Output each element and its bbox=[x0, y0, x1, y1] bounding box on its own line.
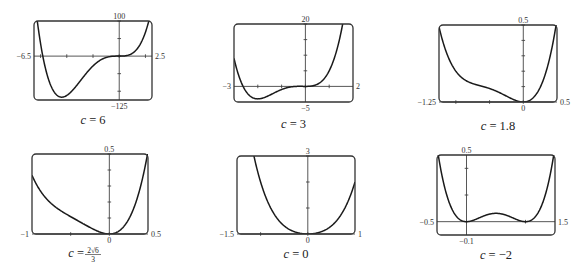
xmax-label: 2 bbox=[356, 82, 360, 91]
plot-panel-6: −0.51.50.5−0.1c = −2 bbox=[419, 146, 568, 263]
xmax-label: 0.5 bbox=[151, 230, 161, 239]
xmin-label: −3 bbox=[222, 82, 231, 91]
function-curve bbox=[234, 0, 353, 99]
ymin-label: −5 bbox=[301, 104, 310, 113]
plot-panel-1: −6.52.5100−125c = 6 bbox=[16, 0, 165, 127]
ymax-label: 100 bbox=[113, 12, 125, 21]
ymax-label: 0.5 bbox=[104, 145, 114, 154]
xmin-label: −6.5 bbox=[16, 52, 31, 61]
xmin-label: −1.25 bbox=[417, 98, 436, 107]
ymin-label: 0 bbox=[107, 236, 111, 245]
caption-denominator: 3 bbox=[91, 255, 95, 264]
caption-value: = 3 bbox=[287, 117, 307, 131]
chart-grid: −6.52.5100−125c = 6−3220−5c = 3−1.250.50… bbox=[0, 0, 581, 271]
ymax-label: 0.5 bbox=[462, 146, 472, 155]
caption: c = 6 bbox=[80, 113, 105, 127]
function-curve bbox=[34, 0, 152, 97]
caption-value: = 6 bbox=[86, 113, 106, 127]
xmin-label: −0.5 bbox=[419, 218, 434, 227]
function-curve bbox=[237, 44, 355, 234]
ymin-label: 0 bbox=[521, 104, 525, 113]
caption: c = 1.8 bbox=[481, 119, 516, 133]
ymax-label: 0.5 bbox=[518, 16, 528, 25]
plot-frame bbox=[32, 154, 148, 234]
xmin-label: −1 bbox=[20, 230, 29, 239]
function-curve bbox=[439, 19, 557, 102]
caption: c = 0 bbox=[283, 247, 308, 261]
xmax-label: 0.5 bbox=[560, 98, 570, 107]
plot-panel-5: −1.5130c = 0 bbox=[219, 44, 362, 261]
function-curve bbox=[437, 147, 555, 222]
xmax-label: 2.5 bbox=[155, 52, 165, 61]
ymin-label: −0.1 bbox=[459, 237, 474, 246]
plot-frame bbox=[234, 24, 353, 102]
plot-frame bbox=[437, 155, 555, 235]
ymax-label: 20 bbox=[301, 15, 309, 24]
ymin-label: −125 bbox=[111, 102, 128, 111]
plot-frame bbox=[237, 156, 355, 234]
caption: c = −2 bbox=[480, 248, 512, 262]
function-curve bbox=[32, 151, 148, 234]
caption-value: = 0 bbox=[289, 247, 309, 261]
xmin-label: −1.5 bbox=[219, 230, 234, 239]
caption-equals: = bbox=[74, 246, 84, 260]
ymin-label: 0 bbox=[306, 236, 310, 245]
caption-value: = −2 bbox=[485, 248, 512, 262]
caption-prefix: c = bbox=[68, 246, 84, 260]
plot-panel-4: −10.50.50c = 2√63 bbox=[20, 145, 161, 264]
xmax-label: 1.5 bbox=[558, 218, 568, 227]
plot-panel-3: −1.250.50.50c = 1.8 bbox=[417, 16, 570, 134]
caption: c = 3 bbox=[281, 117, 306, 131]
ymax-label: 3 bbox=[306, 147, 310, 156]
caption-value: = 1.8 bbox=[486, 119, 515, 133]
plot-panel-2: −3220−5c = 3 bbox=[222, 0, 360, 131]
xmax-label: 1 bbox=[358, 230, 362, 239]
caption-numerator: 2√6 bbox=[87, 246, 99, 255]
